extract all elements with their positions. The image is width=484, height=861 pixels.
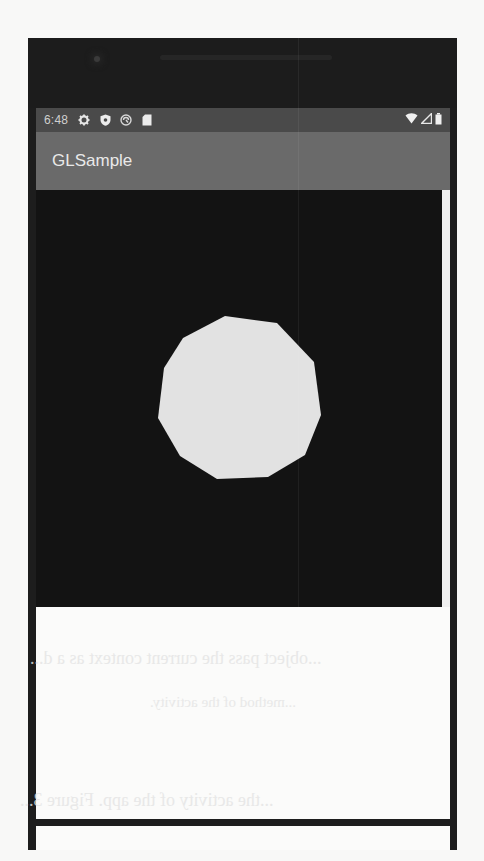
app-toolbar: GLSample <box>36 132 450 190</box>
cellular-signal-icon <box>421 113 432 127</box>
front-camera <box>94 56 100 62</box>
bleed-through-text-3: ...the activity of the app. Figure 3... <box>20 790 273 811</box>
bleed-through-text-2: ...method of the activity. <box>150 694 296 711</box>
earpiece-speaker <box>160 55 332 60</box>
status-bar: 6:48 <box>36 108 450 132</box>
gl-surface-view[interactable] <box>36 190 442 607</box>
phone-frame-bottom-edge <box>28 819 457 826</box>
shield-icon <box>99 114 111 126</box>
settings-icon <box>78 114 90 126</box>
bleed-through-text-1: ...object pass the current context as a … <box>30 648 321 669</box>
page: 6:48 <box>0 0 484 861</box>
sync-icon <box>120 114 132 126</box>
status-right-icons <box>405 113 442 128</box>
sd-card-icon <box>141 114 153 126</box>
phone-frame-left-edge <box>28 108 36 850</box>
phone-frame-right-edge <box>450 108 457 850</box>
scan-artifact-line <box>298 38 299 608</box>
blank-content-area <box>36 607 450 819</box>
rendered-polygon-shape <box>158 316 321 479</box>
wifi-icon <box>405 113 418 127</box>
status-time: 6:48 <box>44 113 68 127</box>
gl-canvas <box>36 190 442 607</box>
side-strip <box>442 190 450 607</box>
app-title: GLSample <box>52 151 132 171</box>
battery-icon <box>435 113 442 128</box>
phone-top-bezel <box>28 38 457 108</box>
